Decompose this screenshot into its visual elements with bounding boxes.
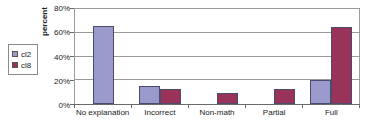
x-axis-line xyxy=(74,104,360,105)
y-tick-label: 40% xyxy=(54,52,70,61)
bar-chart-figure: cl2 cl8 percent 80% 60% 40% 20% 0% xyxy=(0,0,367,125)
legend-label-cl2: cl2 xyxy=(21,50,31,59)
bar-group-incorrect xyxy=(132,9,189,104)
bar-cl8 xyxy=(331,27,352,104)
bar-group-partial xyxy=(245,9,302,104)
x-tick-label-partial: Partial xyxy=(246,108,303,117)
x-tick-label-full: Full xyxy=(303,108,360,117)
bar-cl2 xyxy=(139,86,160,104)
bar-group-full xyxy=(302,9,359,104)
chart-legend: cl2 cl8 xyxy=(8,44,38,75)
legend-item-cl8: cl8 xyxy=(12,60,34,70)
x-tick-label-no-explanation: No explanation xyxy=(74,108,131,117)
y-tick-label: 60% xyxy=(54,28,70,37)
bar-cl8 xyxy=(274,89,295,104)
plot-area xyxy=(74,8,360,105)
x-axis-tick-labels: No explanation Incorrect Non-math Partia… xyxy=(74,108,360,117)
x-tick-label-non-math: Non-math xyxy=(188,108,245,117)
bar-cl2 xyxy=(93,26,114,104)
legend-swatch-cl2 xyxy=(12,51,18,57)
bar-group-no-explanation xyxy=(75,9,132,104)
bars-layer xyxy=(75,9,359,104)
x-tick-label-incorrect: Incorrect xyxy=(131,108,188,117)
legend-swatch-cl8 xyxy=(12,62,18,68)
bar-cl2 xyxy=(310,80,331,104)
bar-group-non-math xyxy=(189,9,246,104)
legend-label-cl8: cl8 xyxy=(21,61,31,70)
bar-cl8 xyxy=(160,89,181,104)
y-axis-tick-labels: 80% 60% 40% 20% 0% xyxy=(48,8,72,105)
bar-cl8 xyxy=(217,93,238,104)
y-tick-label: 80% xyxy=(54,4,70,13)
y-tick-label: 20% xyxy=(54,76,70,85)
y-tick-label: 0% xyxy=(58,101,70,110)
legend-item-cl2: cl2 xyxy=(12,49,34,59)
